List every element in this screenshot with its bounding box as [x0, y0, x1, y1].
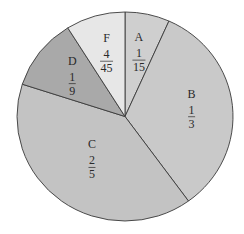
- slice-denominator: 3: [189, 117, 195, 131]
- slice-numerator: 1: [136, 46, 142, 60]
- slice-label-c: C25: [88, 137, 96, 181]
- slice-denominator: 45: [101, 61, 113, 75]
- slice-name: C: [88, 137, 96, 151]
- slice-label-b: B13: [188, 87, 196, 131]
- slice-numerator: 1: [69, 70, 75, 84]
- slice-numerator: 1: [189, 103, 195, 117]
- slice-name: B: [188, 87, 196, 101]
- pie-chart: A115B13C25D19F445: [0, 0, 244, 234]
- slice-name: F: [103, 31, 110, 45]
- slice-denominator: 9: [69, 84, 75, 98]
- pie-slices: [17, 12, 233, 221]
- slice-numerator: 2: [89, 153, 95, 167]
- slice-name: A: [135, 30, 144, 44]
- slice-denominator: 15: [133, 60, 145, 74]
- slice-denominator: 5: [89, 167, 95, 181]
- slice-numerator: 4: [104, 47, 110, 61]
- slice-name: D: [68, 54, 77, 68]
